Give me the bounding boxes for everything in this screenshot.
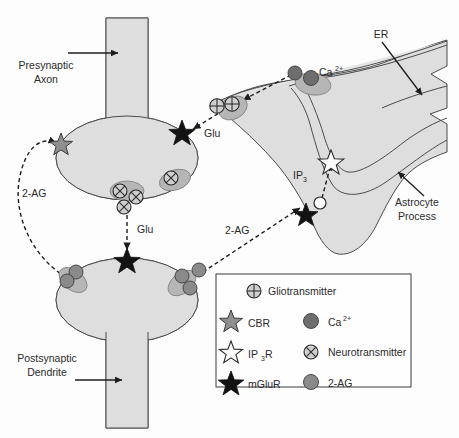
neurotransmitter-icon-4 (164, 171, 178, 185)
two-ag-dot-icon-4 (183, 281, 197, 295)
neurotransmitter-icon-3 (117, 200, 131, 214)
neurotransmitter-icon-2 (129, 190, 143, 204)
diagram-figure: Presynaptic Axon Postsynaptic Dendrite E… (0, 0, 459, 438)
gliotransmitter-icon-2 (225, 97, 239, 111)
neurotransmitter-vesicles-center (110, 181, 144, 214)
gliotransmitter-icon (247, 284, 261, 298)
two-ag-left-label: 2-AG (22, 187, 47, 199)
legend-label-cbr: CBR (248, 317, 271, 329)
neurotransmitter-icon-1 (113, 184, 127, 198)
legend-label-neurotransmitter: Neurotransmitter (328, 346, 407, 358)
glu-lower-label: Glu (137, 223, 154, 235)
legend-label-gliotransmitter: Gliotransmitter (268, 285, 337, 297)
legend-item-two-ag: 2-AG (304, 375, 353, 390)
neurotransmitter-icon (304, 345, 318, 359)
legend-label-two-ag: 2-AG (328, 377, 353, 389)
legend-label-mglur: mGluR (248, 378, 281, 390)
legend: Gliotransmitter CBR IP 3 R (216, 274, 411, 395)
astrocyte-process-label-line1: Astrocyte (395, 196, 439, 208)
svg-text:Ca: Ca (328, 316, 342, 328)
two-ag-right-label: 2-AG (225, 224, 250, 236)
svg-text:IP: IP (248, 348, 258, 360)
calcium-dot-icon-2 (304, 71, 319, 86)
presynaptic-axon-label-line1: Presynaptic (19, 59, 74, 71)
glu-upper-label: Glu (204, 127, 221, 139)
two-ag-dot-icon (304, 375, 319, 390)
calcium-dot-icon-1 (288, 66, 302, 80)
svg-text:R: R (265, 348, 273, 360)
er-label: ER (374, 28, 389, 40)
calcium-dot-icon (304, 314, 319, 329)
astrocyte-process-leader-arrow (398, 172, 424, 196)
diagram-canvas: Presynaptic Axon Postsynaptic Dendrite E… (0, 0, 459, 438)
svg-text:3: 3 (303, 176, 307, 183)
astrocyte-process-label-line2: Process (398, 210, 436, 222)
svg-text:2+: 2+ (343, 315, 351, 322)
two-ag-dot-icon-5 (192, 263, 206, 277)
presynaptic-axon-label-line2: Axon (34, 73, 58, 85)
two-ag-dot-icon-2 (60, 274, 74, 288)
svg-text:2+: 2+ (335, 65, 343, 72)
ip3-molecule-icon (314, 197, 326, 209)
svg-text:IP: IP (293, 169, 303, 181)
svg-text:Ca: Ca (319, 66, 333, 78)
postsynaptic-dendrite-label-line2: Dendrite (27, 366, 67, 378)
gliotransmitter-icon-1 (210, 99, 224, 113)
postsynaptic-dendrite-label-line1: Postsynaptic (17, 352, 77, 364)
two-ag-right-arrow (203, 208, 300, 272)
two-ag-dot-icon-3 (175, 269, 189, 283)
